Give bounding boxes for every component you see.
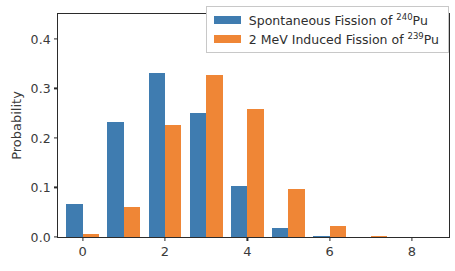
x-tick-mark [411,237,412,241]
y-tick-mark [54,236,58,237]
legend-swatch-spontaneous [214,16,241,24]
bar-spontaneous-1 [107,122,123,237]
x-tick-mark [247,237,248,241]
bar-spontaneous-0 [66,204,82,237]
legend-label-induced: 2 MeV Induced Fission of 239Pu [249,31,439,47]
legend-item-spontaneous: Spontaneous Fission of 240Pu [214,12,439,28]
bar-spontaneous-3 [190,113,206,237]
bar-induced-1 [124,207,140,237]
x-tick-mark [164,237,165,241]
bar-spontaneous-4 [231,186,247,237]
y-tick-mark [54,137,58,138]
legend-item-induced: 2 MeV Induced Fission of 239Pu [214,31,439,47]
bar-induced-4 [247,109,263,237]
x-tick-mark [82,237,83,241]
y-axis-label-text: Probability [9,91,24,160]
bar-induced-7 [371,236,387,237]
legend-label-spontaneous: Spontaneous Fission of 240Pu [249,12,428,28]
chart-legend[interactable]: Spontaneous Fission of 240Pu 2 MeV Induc… [206,6,449,53]
figure: Probability 0.00.10.20.30.402468 Spontan… [0,0,455,271]
y-tick-mark [54,88,58,89]
x-tick-mark [329,237,330,241]
bar-induced-3 [206,75,222,237]
y-axis-label: Probability [7,13,25,238]
legend-swatch-induced [214,35,241,43]
bar-induced-6 [330,226,346,237]
bar-induced-5 [288,189,304,237]
y-tick-mark [54,187,58,188]
y-tick-mark [54,38,58,39]
bar-spontaneous-2 [149,73,165,237]
bar-spontaneous-5 [272,228,288,237]
bar-induced-2 [165,125,181,237]
